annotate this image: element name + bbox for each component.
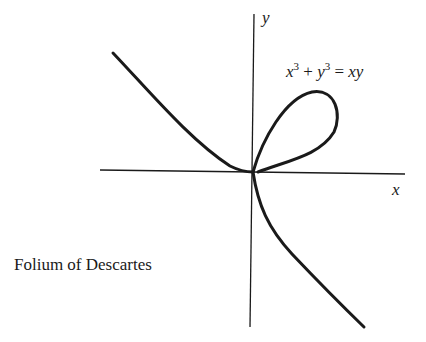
eq-equals: =: [330, 62, 348, 81]
figure-title: Folium of Descartes: [14, 255, 152, 275]
eq-plus: +: [299, 62, 317, 81]
equation-label: x3 + y3 = xy: [286, 60, 363, 82]
eq-y: y: [317, 62, 325, 81]
curve-loop: [253, 92, 337, 172]
folium-plot: [0, 0, 426, 342]
y-axis-label: y: [262, 8, 270, 28]
x-axis-label: x: [392, 180, 400, 200]
eq-rhs: xy: [348, 62, 363, 81]
curve-lower-branch: [253, 172, 364, 327]
eq-x: x: [286, 62, 294, 81]
curve-left-branch: [113, 53, 253, 172]
